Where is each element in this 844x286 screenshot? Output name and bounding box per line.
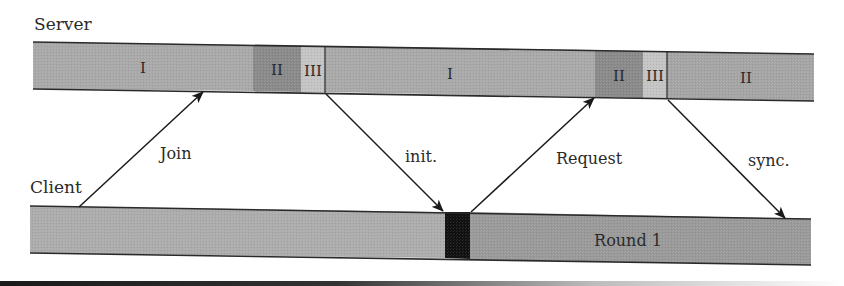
server-segment-label: I	[140, 59, 146, 77]
request-label: Request	[556, 149, 623, 168]
join-label: Join	[158, 144, 191, 163]
server-segment-label: I	[447, 65, 453, 83]
sync-label: sync.	[748, 151, 790, 170]
server-segment-label: II	[271, 61, 283, 79]
server-segment-label: III	[646, 67, 664, 85]
page-divider-rule	[0, 281, 844, 286]
server-segment-label: III	[304, 62, 322, 80]
sequence-diagram: I II III I II III II Round 1 Join init. …	[0, 0, 844, 286]
server-segment-label: II	[613, 67, 625, 85]
server-segment-label: II	[740, 69, 752, 87]
client-timeline-bar	[30, 206, 811, 265]
server-timeline-bar	[33, 42, 814, 101]
init-label: init.	[405, 147, 437, 166]
client-round-label: Round 1	[594, 231, 662, 250]
